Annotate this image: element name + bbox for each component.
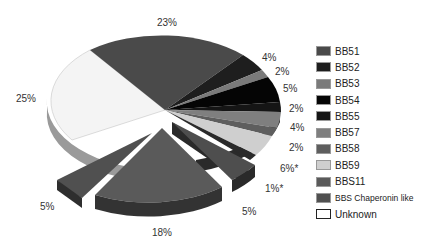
legend-swatch <box>316 209 331 219</box>
legend-swatch <box>316 46 331 56</box>
svg-text:4%: 4% <box>290 122 305 133</box>
svg-text:2%: 2% <box>275 66 290 77</box>
legend-label: BB51 <box>335 46 359 57</box>
svg-text:18%: 18% <box>152 227 172 238</box>
svg-text:5%: 5% <box>242 206 257 217</box>
svg-text:1%*: 1%* <box>265 183 283 194</box>
legend-item: BBS11 <box>316 173 413 189</box>
legend-item: BBS Chaperonin like <box>316 190 413 206</box>
legend-swatch <box>316 62 331 72</box>
svg-text:4%: 4% <box>262 52 277 63</box>
legend-swatch <box>316 128 331 138</box>
legend-swatch <box>316 144 331 154</box>
svg-text:6%*: 6%* <box>280 163 298 174</box>
legend-label: BB55 <box>335 111 359 122</box>
legend-label: BB54 <box>335 95 359 106</box>
legend: BB51BB52BB53BB54BB55BB57BB58BB59BBS11BBS… <box>316 43 413 222</box>
svg-text:5%: 5% <box>40 201 55 212</box>
legend-item: BB59 <box>316 157 413 173</box>
legend-label: BB58 <box>335 143 359 154</box>
legend-swatch <box>316 95 331 105</box>
legend-label: Unknown <box>335 209 377 220</box>
legend-label: BBS11 <box>335 176 365 187</box>
legend-label: BB57 <box>335 127 359 138</box>
svg-text:5%: 5% <box>283 83 298 94</box>
legend-item: Unknown <box>316 206 413 222</box>
legend-item: BB58 <box>316 141 413 157</box>
svg-text:2%: 2% <box>289 142 304 153</box>
legend-label: BBS Chaperonin like <box>335 193 413 203</box>
legend-swatch <box>316 177 331 187</box>
svg-text:25%: 25% <box>16 93 36 104</box>
legend-label: BB52 <box>335 62 359 73</box>
legend-label: BB53 <box>335 78 359 89</box>
legend-item: BB55 <box>316 108 413 124</box>
legend-item: BB52 <box>316 59 413 75</box>
pie-chart: 23% 4% 2% 5% 2% 4% 2% 6%* 1%* 5% 18% 5% … <box>0 0 310 243</box>
legend-item: BB57 <box>316 124 413 140</box>
svg-text:23%: 23% <box>157 17 177 28</box>
legend-item: BB51 <box>316 43 413 59</box>
svg-text:2%: 2% <box>289 103 304 114</box>
legend-item: BB53 <box>316 76 413 92</box>
legend-swatch <box>316 79 331 89</box>
legend-swatch <box>316 193 331 203</box>
legend-item: BB54 <box>316 92 413 108</box>
legend-label: BB59 <box>335 160 359 171</box>
legend-swatch <box>316 111 331 121</box>
legend-swatch <box>316 160 331 170</box>
